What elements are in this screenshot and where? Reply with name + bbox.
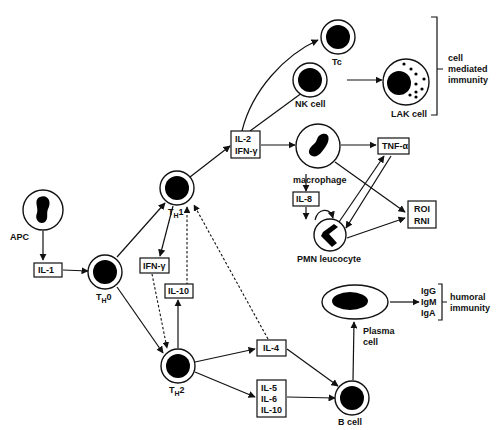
- bcell: B cell: [335, 381, 369, 427]
- macrophage-label: macrophage: [293, 175, 347, 185]
- svg-text:cell: cell: [448, 53, 463, 63]
- lak-cell: LAK cell: [383, 59, 429, 119]
- tnf-alpha-box: TNF-α: [378, 138, 409, 154]
- plasma-label-1: Plasma: [363, 326, 396, 336]
- il5-il6-il10-box: IL-5 IL-6 IL-10: [257, 380, 286, 417]
- humoral-bracket: humoral immunity: [438, 284, 490, 320]
- lak-label: LAK cell: [391, 109, 427, 119]
- th1-cell: TH1: [160, 171, 194, 219]
- il1-box: IL-1: [34, 263, 62, 277]
- svg-text:IL-2: IL-2: [235, 134, 251, 144]
- macrophage-cell: macrophage: [293, 124, 347, 185]
- th0-cell: TH0: [88, 255, 122, 304]
- plasma-label-2: cell: [363, 337, 378, 347]
- ifn-gamma-box: IFN-γ: [140, 258, 169, 273]
- svg-text:IL-6: IL-6: [261, 394, 277, 404]
- il10-box: IL-10: [165, 284, 193, 298]
- svg-text:IFN-γ: IFN-γ: [143, 261, 166, 271]
- pmn-label: PMN leucocyte: [297, 254, 361, 264]
- cell-mediated-bracket: cell mediated immunity: [431, 17, 488, 115]
- tc-cell: Tc: [321, 20, 355, 67]
- svg-text:IgG: IgG: [421, 286, 436, 296]
- th0-label: TH0: [96, 292, 112, 304]
- il8-box: IL-8: [293, 192, 319, 206]
- svg-text:IFN-γ: IFN-γ: [235, 146, 258, 156]
- svg-text:IL-4: IL-4: [263, 343, 279, 353]
- svg-text:immunity: immunity: [448, 75, 488, 85]
- svg-text:IL-5: IL-5: [261, 383, 277, 393]
- svg-text:IL-1: IL-1: [38, 265, 54, 275]
- svg-text:IgM: IgM: [421, 297, 437, 307]
- th2-label: TH2: [169, 385, 185, 397]
- nk-label: NK cell: [295, 99, 326, 109]
- svg-text:mediated: mediated: [448, 64, 488, 74]
- bcell-label: B cell: [338, 417, 362, 427]
- apc-label: APC: [10, 232, 30, 242]
- svg-text:IL-8: IL-8: [296, 194, 312, 204]
- antibody-list: IgG IgM IgA: [421, 286, 437, 318]
- svg-text:RNI: RNI: [414, 216, 430, 226]
- tc-label: Tc: [332, 57, 342, 67]
- roi-rni-box: ROI RNI: [408, 201, 436, 228]
- svg-text:TNF-α: TNF-α: [382, 141, 408, 151]
- th2-cell: TH2: [161, 349, 195, 397]
- svg-text:IgA: IgA: [421, 308, 436, 318]
- svg-text:humoral: humoral: [450, 292, 486, 302]
- svg-text:IL-10: IL-10: [261, 405, 282, 415]
- immune-response-diagram: APC TH0 TH1 TH2 Tc NK cell LA: [0, 0, 502, 430]
- pmn-cell: PMN leucocyte: [297, 219, 361, 264]
- nk-cell: NK cell: [293, 63, 327, 109]
- svg-text:immunity: immunity: [450, 303, 490, 313]
- il4-box: IL-4: [257, 340, 286, 356]
- il2-ifn-box: IL-2 IFN-γ: [231, 131, 260, 158]
- apc-cell: APC: [10, 190, 63, 242]
- plasma-cell: Plasma cell: [322, 285, 396, 347]
- svg-text:ROI: ROI: [414, 204, 430, 214]
- svg-text:IL-10: IL-10: [168, 286, 189, 296]
